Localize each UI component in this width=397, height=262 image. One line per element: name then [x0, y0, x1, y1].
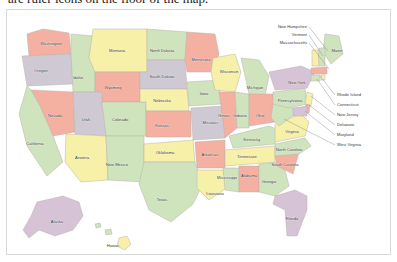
callout-label-new-jersey: New Jersey	[337, 112, 359, 117]
state-shape-north-dakota[interactable]	[147, 29, 187, 60]
state-label-indiana: Indiana	[233, 113, 247, 118]
state-label-north-dakota: North Dakota	[150, 48, 175, 53]
state-label-louisiana: Louisiana	[206, 191, 224, 196]
state-label-pennsylvania: Pennsylvania	[278, 98, 303, 103]
state-label-south-carolina: South Carolina	[271, 162, 299, 167]
map-canvas[interactable]: WashingtonOregonIdahoMontanaWyomingNevad…	[7, 10, 390, 254]
callout-label-rhode-island: Rhode Island	[337, 92, 362, 97]
state-label-nebraska: Nebraska	[153, 98, 171, 103]
callout-label-west-virginia: West Virginia	[337, 142, 362, 147]
state-label-kansas: Kansas	[155, 123, 169, 128]
state-label-minnesota: Minnesota	[192, 57, 212, 62]
state-shape-connecticut[interactable]	[311, 75, 320, 81]
callout-label-connecticut: Connecticut	[337, 102, 359, 107]
state-label-washington: Washington	[40, 41, 62, 46]
callout-label-delaware: Delaware	[337, 122, 355, 127]
state-label-iowa: Iowa	[200, 91, 209, 96]
state-label-hawaii: Hawaii	[107, 243, 119, 248]
state-shape-hawaii-island-c[interactable]	[95, 223, 101, 228]
state-label-michigan: Michigan	[247, 85, 264, 90]
state-label-maine: Maine	[331, 48, 343, 53]
state-label-alaska: Alaska	[51, 219, 64, 224]
state-label-georgia: Georgia	[262, 179, 277, 184]
callout-label-massachusetts: Massachusetts	[280, 40, 307, 45]
state-shape-indiana[interactable]	[235, 92, 249, 128]
map-frame: WashingtonOregonIdahoMontanaWyomingNevad…	[6, 9, 391, 255]
state-label-south-dakota: South Dakota	[150, 74, 176, 79]
us-states-map-svg[interactable]: WashingtonOregonIdahoMontanaWyomingNevad…	[7, 10, 390, 254]
state-label-alabama: Alabama	[241, 173, 258, 178]
state-label-texas: Texas	[157, 197, 168, 202]
state-label-north-carolina: North Carolina	[276, 147, 303, 152]
state-label-montana: Montana	[109, 48, 126, 53]
state-label-wyoming: Wyoming	[104, 85, 122, 90]
state-label-new-mexico: New Mexico	[106, 162, 129, 167]
caption-strip: are ruler icons on the floor of the map.	[0, 0, 397, 7]
callout-label-new-hampshire: New Hampshire	[278, 24, 308, 29]
callout-label-vermont: Vermont	[292, 32, 308, 37]
map-figure-page: are ruler icons on the floor of the map.	[0, 0, 397, 262]
state-shape-massachusetts[interactable]	[311, 67, 327, 74]
state-shape-ohio[interactable]	[249, 94, 275, 126]
state-label-colorado: Colorado	[112, 117, 129, 122]
state-label-kentucky: Kentucky	[244, 137, 262, 142]
state-label-oklahoma: Oklahoma	[156, 150, 175, 155]
state-label-mississippi: Mississippi	[217, 175, 237, 180]
caption-text: are ruler icons on the floor of the map.	[8, 0, 208, 7]
state-label-virginia: Virginia	[285, 129, 299, 134]
state-label-wisconsin: Wisconsin	[220, 69, 239, 74]
state-label-utah: Utah	[82, 117, 91, 122]
state-label-tennessee: Tennessee	[237, 154, 258, 159]
state-shape-maryland[interactable]	[293, 106, 307, 116]
state-label-illinois: Illinois	[218, 113, 229, 118]
state-shape-alabama[interactable]	[239, 166, 259, 192]
state-label-nevada: Nevada	[48, 113, 63, 118]
state-shape-hawaii-island-b[interactable]	[105, 229, 112, 235]
state-label-oregon: Oregon	[34, 68, 48, 73]
callout-label-maryland: Maryland	[337, 132, 355, 137]
state-label-idaho: Idaho	[73, 75, 84, 80]
state-label-arkansas: Arkansas	[201, 152, 218, 157]
state-label-florida: Florida	[286, 216, 299, 221]
state-label-ohio: Ohio	[256, 113, 265, 118]
state-shape-vermont[interactable]	[312, 50, 319, 66]
state-label-missouri: Missouri	[202, 120, 217, 125]
state-shape-rhode-island[interactable]	[321, 75, 325, 80]
state-label-arizona: Arizona	[75, 155, 90, 160]
state-shape-new-mexico[interactable]	[106, 136, 144, 182]
state-label-california: California	[26, 141, 44, 146]
state-label-new-york: New York	[288, 80, 306, 85]
